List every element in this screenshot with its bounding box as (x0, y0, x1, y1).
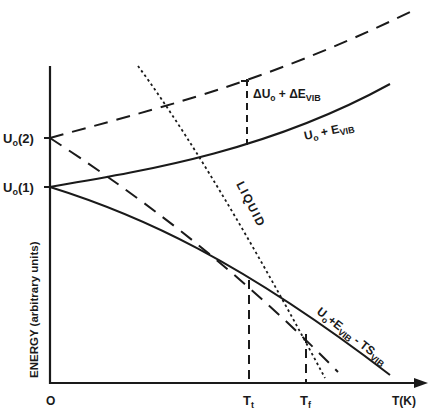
x-axis-label: T(K) (392, 394, 416, 408)
u0-2-label: Uo(2) (3, 131, 34, 148)
delta-annotation: ΔUo + ΔEVIB (253, 87, 321, 103)
u0-evib-label: Uo + EVIB (303, 119, 356, 145)
x-axis-arrow-icon (414, 378, 428, 388)
y-axis-label: ENERGY (arbitrary units) (28, 241, 40, 378)
energy-temperature-diagram: Uo(2) Uo(1) ENERGY (arbitrary units) O T… (0, 0, 432, 416)
liquid-dotted-curve (138, 66, 325, 378)
upper-dashed-curve (50, 12, 410, 138)
tt-label: Tt (243, 393, 254, 410)
free-energy-curve (50, 187, 390, 375)
tf-label: Tf (300, 393, 312, 410)
u0-1-label: Uo(1) (3, 180, 34, 197)
lower-dashed-curve (50, 138, 338, 372)
liquid-label: LIQUID (233, 179, 268, 230)
origin-label: O (46, 394, 55, 408)
